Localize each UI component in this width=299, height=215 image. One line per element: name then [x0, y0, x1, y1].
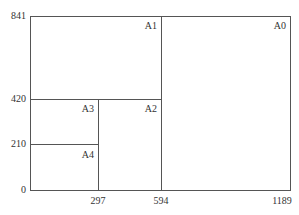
- x-tick-297: 297: [83, 196, 113, 206]
- area-label-a1: A1: [141, 21, 157, 31]
- area-label-a4: A4: [78, 150, 94, 160]
- divider-594: [161, 16, 162, 191]
- y-tick-210: 210: [4, 139, 26, 149]
- frame-left-axis: [30, 16, 31, 191]
- frame-right: [290, 16, 291, 191]
- divider-297: [98, 99, 99, 191]
- area-label-a3: A3: [78, 104, 94, 114]
- x-tick-1189: 1189: [267, 196, 297, 206]
- area-label-a2: A2: [141, 104, 157, 114]
- divider-210: [30, 144, 98, 145]
- divider-420: [30, 99, 161, 100]
- y-tick-420: 420: [4, 94, 26, 104]
- y-tick-0: 0: [4, 185, 26, 195]
- x-tick-594: 594: [146, 196, 176, 206]
- area-label-a0: A0: [270, 21, 286, 31]
- y-tick-841: 841: [4, 11, 26, 21]
